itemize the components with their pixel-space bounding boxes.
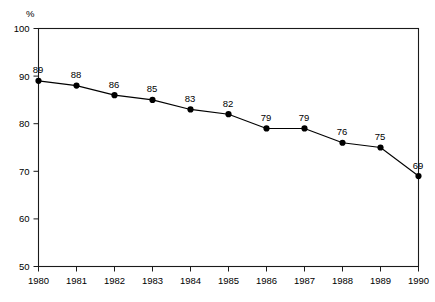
series-line-path bbox=[39, 81, 419, 176]
data-point-label-1990: 69 bbox=[413, 160, 424, 171]
y-tick-label-90: 90 bbox=[19, 71, 30, 82]
chart-canvas: 5060708090100 19801981198219831984198519… bbox=[0, 0, 435, 302]
x-tick-label-1983: 1983 bbox=[142, 275, 163, 286]
x-tick-label-1990: 1990 bbox=[408, 275, 429, 286]
data-point-1981 bbox=[73, 83, 79, 89]
data-point-label-1981: 88 bbox=[71, 69, 82, 80]
plot-area-border bbox=[39, 29, 419, 267]
data-point-label-1982: 86 bbox=[109, 79, 120, 90]
data-point-1985 bbox=[225, 111, 231, 117]
data-point-1989 bbox=[377, 144, 383, 150]
y-axis-tick-labels: 5060708090100 bbox=[14, 23, 30, 272]
data-point-label-1988: 76 bbox=[337, 126, 348, 137]
x-tick-label-1982: 1982 bbox=[104, 275, 125, 286]
x-tick-label-1984: 1984 bbox=[180, 275, 201, 286]
x-tick-label-1981: 1981 bbox=[66, 275, 87, 286]
data-point-1983 bbox=[149, 97, 155, 103]
data-point-value-labels: 8988868583827979767569 bbox=[33, 64, 424, 170]
x-tick-label-1987: 1987 bbox=[294, 275, 315, 286]
x-tick-label-1980: 1980 bbox=[28, 275, 49, 286]
data-point-label-1986: 79 bbox=[261, 112, 272, 123]
data-point-markers bbox=[35, 78, 421, 179]
data-point-label-1985: 82 bbox=[223, 98, 234, 109]
line-chart: 5060708090100 19801981198219831984198519… bbox=[0, 0, 435, 302]
y-tick-label-80: 80 bbox=[19, 118, 30, 129]
data-point-1982 bbox=[111, 92, 117, 98]
x-axis-tick-labels: 1980198119821983198419851986198719881989… bbox=[28, 275, 429, 286]
y-tick-label-50: 50 bbox=[19, 261, 30, 272]
data-point-label-1983: 85 bbox=[147, 83, 158, 94]
data-point-1988 bbox=[339, 140, 345, 146]
plot-frame bbox=[39, 29, 419, 267]
data-point-1986 bbox=[263, 125, 269, 131]
data-point-1984 bbox=[187, 106, 193, 112]
y-axis-unit-label: % bbox=[26, 8, 35, 19]
y-tick-label-60: 60 bbox=[19, 213, 30, 224]
x-tick-label-1986: 1986 bbox=[256, 275, 277, 286]
data-point-label-1989: 75 bbox=[375, 131, 386, 142]
data-point-1990 bbox=[415, 173, 421, 179]
data-point-label-1987: 79 bbox=[299, 112, 310, 123]
x-tick-label-1988: 1988 bbox=[332, 275, 353, 286]
data-point-1980 bbox=[35, 78, 41, 84]
x-tick-label-1989: 1989 bbox=[370, 275, 391, 286]
x-axis-ticks bbox=[39, 267, 419, 272]
x-tick-label-1985: 1985 bbox=[218, 275, 239, 286]
data-point-1987 bbox=[301, 125, 307, 131]
y-tick-label-100: 100 bbox=[14, 23, 30, 34]
y-tick-label-70: 70 bbox=[19, 166, 30, 177]
data-point-label-1984: 83 bbox=[185, 93, 196, 104]
data-point-label-1980: 89 bbox=[33, 64, 44, 75]
